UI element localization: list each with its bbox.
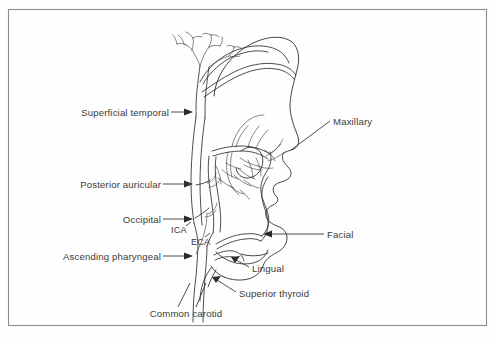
carotid-trunks	[191, 117, 221, 322]
leader-common-carotid-right	[196, 283, 206, 307]
leader-lines	[163, 109, 330, 308]
superficial-temporal-tree	[173, 32, 296, 118]
maxillary-network	[212, 115, 284, 199]
neck-branches	[195, 152, 271, 301]
label-lingual: Lingual	[252, 263, 284, 274]
label-superior-thyroid: Superior thyroid	[239, 288, 309, 299]
figure-page: Superficial temporal Posterior auricular…	[0, 0, 495, 339]
label-maxillary: Maxillary	[333, 116, 372, 127]
label-superficial-temporal: Superficial temporal	[81, 107, 169, 118]
label-occipital: Occipital	[123, 214, 161, 225]
label-facial: Facial	[327, 229, 354, 240]
anatomical-diagram: Superficial temporal Posterior auricular…	[0, 0, 495, 339]
label-ica: ICA	[171, 225, 187, 235]
label-posterior-auricular: Posterior auricular	[80, 179, 161, 190]
head-profile	[211, 37, 299, 280]
arrowhead-superficial-temporal	[184, 109, 193, 116]
label-common-carotid: Common carotid	[150, 308, 222, 319]
label-eca: ECA	[191, 237, 211, 247]
arrowhead-occipital	[184, 216, 193, 223]
arrowhead-ascending-pharyngeal	[184, 253, 193, 260]
leader-superior-thyroid	[217, 280, 236, 292]
label-ascending-pharyngeal: Ascending pharyngeal	[63, 251, 161, 262]
label-texts: Superficial temporal Posterior auricular…	[63, 107, 372, 319]
figure-frame	[9, 10, 487, 326]
leader-maxillary	[291, 121, 330, 150]
arrowhead-posterior-auricular	[184, 181, 193, 188]
leader-common-carotid-left	[178, 283, 190, 307]
